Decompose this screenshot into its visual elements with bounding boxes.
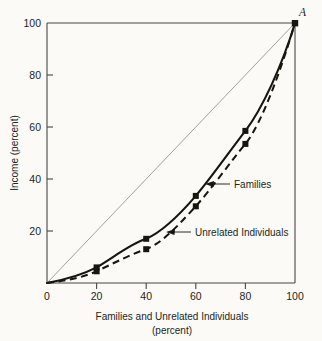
x-axis-title-line2: (percent) (152, 325, 192, 336)
lorenz-curve-figure: 100 80 60 40 20 0 20 40 60 80 100 Famili… (0, 0, 322, 341)
chart-canvas: 100 80 60 40 20 0 20 40 60 80 100 Famili… (0, 0, 322, 341)
x-tick-label-0: 0 (44, 290, 50, 302)
marker-unrelated-20 (94, 268, 100, 274)
marker-point-a (292, 20, 298, 26)
y-axis-title: Income (percent) (9, 115, 20, 191)
marker-families-60 (193, 193, 199, 199)
y-tick-label-60: 60 (29, 121, 41, 133)
y-tick-label-80: 80 (29, 69, 41, 81)
y-tick-label-20: 20 (29, 225, 41, 237)
x-tick-label-100: 100 (286, 290, 304, 302)
y-tick-label-100: 100 (23, 17, 41, 29)
line-of-equality (47, 23, 295, 283)
x-tick-label-80: 80 (240, 290, 252, 302)
unrelated-individuals-label: Unrelated Individuals (195, 227, 288, 238)
y-axis-ticks (47, 75, 53, 231)
x-tick-label-20: 20 (91, 290, 103, 302)
unrelated-individuals-annotation: Unrelated Individuals (166, 227, 288, 238)
x-tick-label-60: 60 (190, 290, 202, 302)
marker-unrelated-60 (193, 203, 199, 209)
x-axis-title-line1: Families and Unrelated Individuals (96, 311, 249, 322)
x-tick-label-40: 40 (140, 290, 152, 302)
marker-unrelated-40 (143, 246, 149, 252)
marker-families-80 (242, 128, 248, 134)
marker-unrelated-80 (242, 141, 248, 147)
marker-families-40 (143, 236, 149, 242)
y-tick-label-40: 40 (29, 173, 41, 185)
point-a-label: A (298, 6, 307, 18)
families-label: Families (234, 179, 271, 190)
x-axis-ticks (97, 283, 246, 289)
